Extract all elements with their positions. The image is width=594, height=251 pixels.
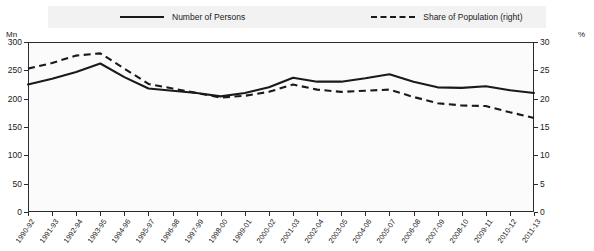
x-axis-tick-label: 1990-92: [8, 218, 36, 251]
x-axis-tick-mark: [124, 212, 125, 216]
y-axis-tick-label-right: 15: [540, 123, 580, 132]
x-axis-tick-label: 2011-13: [514, 218, 542, 251]
y-axis-tick-label-left: 200: [0, 95, 22, 104]
y-axis-tick-mark-right: [534, 42, 538, 43]
y-axis-tick-label-right: 10: [540, 151, 580, 160]
x-axis-tick-mark: [486, 212, 487, 216]
y-axis-tick-mark-left: [24, 42, 28, 43]
x-axis-tick-label: 2006-08: [394, 218, 422, 251]
x-axis-tick-label: 2001-03: [273, 218, 301, 251]
x-axis-tick-label: 1996-98: [153, 218, 181, 251]
x-axis-tick-mark: [317, 212, 318, 216]
chart-legend: Number of Persons Share of Population (r…: [48, 6, 546, 28]
x-axis-tick-mark: [100, 212, 101, 216]
x-axis-tick-label: 1992-94: [56, 218, 84, 251]
y-axis-tick-mark-left: [24, 184, 28, 185]
y-axis-tick-mark-left: [24, 127, 28, 128]
legend-item-number-of-persons: Number of Persons: [120, 13, 245, 22]
y-axis-tick-label-left: 0: [0, 208, 22, 217]
x-axis-tick-mark: [534, 212, 535, 216]
x-axis-tick-mark: [510, 212, 511, 216]
y-axis-tick-mark-left: [24, 155, 28, 156]
x-axis-tick-mark: [269, 212, 270, 216]
x-axis-tick-mark: [414, 212, 415, 216]
x-axis-tick-mark: [221, 212, 222, 216]
x-axis-tick-label: 2003-05: [321, 218, 349, 251]
y-axis-tick-mark-right: [534, 184, 538, 185]
legend-label-share-of-population: Share of Population (right): [423, 13, 522, 22]
chart-container: Number of Persons Share of Population (r…: [0, 0, 594, 251]
y-axis-tick-label-left: 100: [0, 151, 22, 160]
y-axis-tick-label-left: 300: [0, 38, 22, 47]
x-axis-tick-mark: [293, 212, 294, 216]
legend-item-share-of-population: Share of Population (right): [371, 13, 522, 22]
y-axis-tick-label-right: 30: [540, 38, 580, 47]
x-axis-tick-mark: [173, 212, 174, 216]
y-axis-tick-mark-right: [534, 99, 538, 100]
x-axis-tick-mark: [462, 212, 463, 216]
y-axis-tick-mark-right: [534, 70, 538, 71]
y-axis-tick-label-right: 25: [540, 66, 580, 75]
x-axis-tick-mark: [148, 212, 149, 216]
plot-area: [28, 42, 534, 212]
y-axis-tick-mark-left: [24, 70, 28, 71]
y-axis-tick-mark-right: [534, 155, 538, 156]
x-axis-tick-mark: [28, 212, 29, 216]
x-axis-tick-label: 1995-97: [129, 218, 157, 251]
x-axis-tick-mark: [438, 212, 439, 216]
legend-solid-line-icon: [120, 16, 164, 18]
x-axis-tick-mark: [365, 212, 366, 216]
x-axis-tick-label: 1991-93: [32, 218, 60, 251]
legend-label-number-of-persons: Number of Persons: [172, 13, 245, 22]
x-axis-tick-mark: [76, 212, 77, 216]
x-axis-tick-label: 2002-04: [297, 218, 325, 251]
x-axis-tick-mark: [341, 212, 342, 216]
y-axis-tick-label-left: 50: [0, 180, 22, 189]
x-axis-tick-label: 1993-95: [80, 218, 108, 251]
legend-dashed-line-icon: [371, 16, 415, 18]
x-axis-tick-mark: [389, 212, 390, 216]
y-axis-tick-label-left: 250: [0, 66, 22, 75]
y-axis-tick-mark-left: [24, 99, 28, 100]
x-axis-tick-mark: [52, 212, 53, 216]
x-axis-tick-label: 2005-07: [370, 218, 398, 251]
x-axis-tick-label: 2004-06: [346, 218, 374, 251]
y-axis-tick-label-right: 20: [540, 95, 580, 104]
y-axis-tick-mark-right: [534, 127, 538, 128]
x-axis-tick-label: 1994-96: [105, 218, 133, 251]
x-axis-tick-mark: [197, 212, 198, 216]
y-axis-tick-label-right: 5: [540, 180, 580, 189]
y-axis-tick-label-left: 150: [0, 123, 22, 132]
x-axis-tick-mark: [245, 212, 246, 216]
x-axis-tick-label: 2000-02: [249, 218, 277, 251]
y-axis-tick-label-right: 0: [540, 208, 580, 217]
